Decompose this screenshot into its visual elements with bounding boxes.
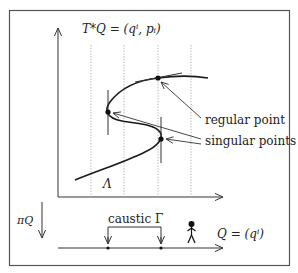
regular-point (155, 75, 160, 80)
lagrangian-curve (75, 76, 208, 180)
caustic-point-right (159, 246, 162, 249)
caustic-point-left (106, 246, 109, 249)
caustic-bracket (108, 227, 161, 243)
singular-point-pointer-right (166, 139, 201, 144)
regular-point-pointer (161, 82, 201, 118)
singular-point-right (158, 136, 163, 141)
regular-point-label: regular point (205, 114, 285, 126)
diagram-canvas: T*Q = (qⁱ, pᵢ) regular point singular po… (0, 0, 298, 273)
singular-points-label: singular points (205, 135, 296, 147)
projection-label: πQ (17, 215, 33, 226)
base-manifold-label: Q = (qⁱ) (217, 228, 264, 240)
lagrangian-label: Λ (103, 178, 112, 190)
caustic-label: caustic Γ (108, 213, 163, 225)
observer-icon (188, 222, 196, 243)
singular-point-left (105, 109, 110, 114)
singular-point-pointer-left (113, 113, 201, 139)
phase-space-label: T*Q = (qⁱ, pᵢ) (82, 23, 161, 35)
